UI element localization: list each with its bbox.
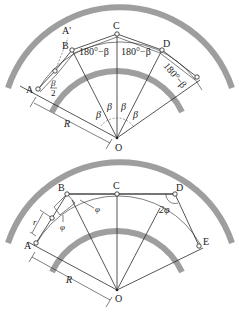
node-C [115, 32, 119, 36]
label-beta-1: β [95, 109, 101, 120]
node-E [195, 75, 199, 79]
label-B: B [62, 40, 69, 51]
label-R-bottom: R [65, 274, 72, 285]
label-supplement-C: 180°−β [121, 46, 151, 57]
label-phi-down: φ [60, 222, 65, 232]
bottom-node-C [115, 192, 119, 196]
hinge-quad [54, 194, 75, 215]
label-O: O [115, 142, 122, 153]
r-ext-1 [30, 232, 36, 236]
top-r-tick-1 [30, 97, 36, 107]
label-C: C [113, 20, 120, 31]
radial-line-E [117, 80, 200, 138]
bottom-radial-E [117, 248, 203, 290]
label-D: D [163, 38, 170, 49]
bottom-r-tick-1 [29, 252, 35, 262]
node-A [36, 87, 40, 91]
label-r-small: r [33, 217, 37, 227]
label-A: A [26, 84, 34, 95]
bottom-node-A [34, 241, 38, 245]
label-beta-4: β [132, 109, 138, 120]
bottom-node-O [116, 289, 119, 292]
node-B [70, 48, 74, 52]
label-two-phi: 2φ [159, 204, 170, 215]
label-beta-3: β [120, 101, 126, 112]
label-supplement-B: 180°−β [79, 46, 109, 57]
label-A-prime: A' [62, 25, 71, 36]
top-diagram: A A' B C D O β 2 180°−β 180°−β 180°−β β … [8, 7, 232, 153]
bottom-radial-D [117, 208, 160, 290]
bottom-node-B [65, 192, 69, 196]
node-O [116, 137, 119, 140]
label-beta-2: β [106, 101, 112, 112]
node-mid-AB [53, 69, 57, 73]
bottom-label-O: O [115, 293, 122, 304]
label-R-top: R [63, 118, 70, 129]
label-half-beta-den: 2 [51, 88, 56, 98]
figure: A A' B C D O β 2 180°−β 180°−β 180°−β β … [0, 0, 239, 317]
bottom-label-C: C [113, 180, 120, 191]
bottom-node-E [197, 244, 201, 248]
bottom-chain-links [36, 194, 199, 246]
label-phi-right: φ [95, 204, 100, 214]
bottom-label-E: E [203, 236, 209, 247]
radial-line-D [117, 50, 162, 138]
radial-line-B [72, 50, 117, 138]
bottom-label-A: A [24, 240, 32, 251]
bottom-label-B: B [58, 182, 65, 193]
bottom-diagram: A B C D E O φ φ 2φ r R [8, 162, 232, 307]
bottom-node-mid [50, 216, 54, 220]
top-r-tick-2 [106, 139, 112, 149]
bottom-pitch-arc [36, 196, 200, 244]
bottom-label-D: D [176, 182, 183, 193]
label-half-beta-num: β [50, 78, 56, 88]
